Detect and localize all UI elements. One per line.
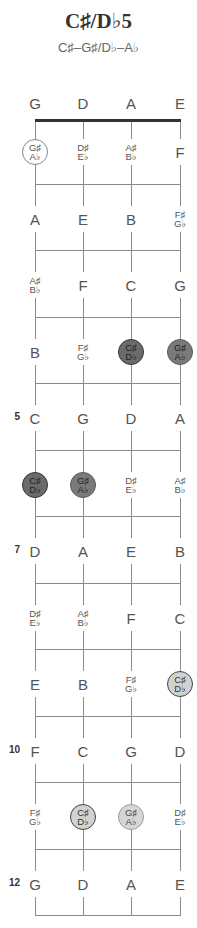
fret-note[interactable]: D [70, 871, 96, 897]
fret-note[interactable]: F♯G♭ [22, 804, 48, 830]
fret-note[interactable]: E [167, 871, 193, 897]
fret-note[interactable]: F [70, 272, 96, 298]
note-name: G♭ [77, 352, 89, 361]
note-name: F [30, 743, 39, 760]
fret-note[interactable]: B [70, 671, 96, 697]
fret-note[interactable]: F [167, 139, 193, 165]
fret-number-marker: 5 [6, 411, 20, 422]
string-line-A [131, 121, 132, 915]
fret-note[interactable]: C♯D♭ [70, 804, 96, 830]
fret-note[interactable]: A♯B♭ [70, 605, 96, 631]
fret-note[interactable]: C [22, 405, 48, 431]
fret-note[interactable]: C [70, 738, 96, 764]
note-name: D [30, 543, 41, 560]
note-name: E♭ [175, 817, 186, 826]
fret-note[interactable]: B [118, 206, 144, 232]
note-name: B [126, 211, 136, 228]
fret-note[interactable]: G♯A♭ [167, 339, 193, 365]
note-name: B [175, 543, 185, 560]
fret-note[interactable]: F♯G♭ [118, 671, 144, 697]
fret-note[interactable]: F♯G♭ [70, 339, 96, 365]
fret-line-5 [35, 450, 181, 451]
note-name: D [126, 410, 137, 427]
fret-note[interactable]: C [118, 272, 144, 298]
fret-note[interactable]: D♯E♭ [70, 139, 96, 165]
note-name: A [126, 876, 136, 893]
fret-note[interactable]: E [70, 206, 96, 232]
note-name: G [174, 277, 186, 294]
note-name: A [175, 410, 185, 427]
fret-line-12 [35, 915, 181, 916]
note-name: D [175, 743, 186, 760]
note-name: F [126, 610, 135, 627]
fret-note[interactable]: G♯A♭ [70, 472, 96, 498]
fret-line-1 [35, 184, 181, 185]
fret-note[interactable]: A♯B♭ [167, 472, 193, 498]
fret-note[interactable]: G♯A♭ [22, 139, 48, 165]
note-name: A♭ [126, 817, 137, 826]
fret-note[interactable]: G [70, 405, 96, 431]
note-name: B♭ [30, 285, 41, 294]
fret-number-marker: 10 [6, 744, 20, 755]
note-name: E♭ [30, 618, 41, 627]
fret-note[interactable]: G [118, 738, 144, 764]
string-line-E [180, 121, 181, 915]
fret-line-4 [35, 383, 181, 384]
open-string-label: G [20, 95, 50, 112]
note-name: C [126, 277, 137, 294]
fret-note[interactable]: D [167, 738, 193, 764]
fret-note[interactable]: A [22, 206, 48, 232]
fret-note[interactable]: D♯E♭ [167, 804, 193, 830]
fret-note[interactable]: A [70, 538, 96, 564]
fret-line-8 [35, 649, 181, 650]
fret-note[interactable]: B [167, 538, 193, 564]
fret-line-2 [35, 250, 181, 251]
note-name: B♭ [126, 152, 137, 161]
open-string-label: E [165, 95, 195, 112]
fret-note[interactable]: C♯D♭ [167, 671, 193, 697]
note-name: F [175, 144, 184, 161]
fret-number-marker: 7 [6, 544, 20, 555]
note-name: A [30, 211, 40, 228]
fret-note[interactable]: D♯E♭ [118, 472, 144, 498]
fret-line-6 [35, 516, 181, 517]
fret-note[interactable]: F [118, 605, 144, 631]
note-name: G [29, 876, 41, 893]
fret-note[interactable]: A [167, 405, 193, 431]
note-name: D♭ [174, 684, 185, 693]
note-name: B♭ [175, 485, 186, 494]
note-name: A♭ [30, 152, 41, 161]
fret-note[interactable]: F♯G♭ [167, 206, 193, 232]
fret-note[interactable]: G [22, 871, 48, 897]
note-name: D♭ [29, 485, 40, 494]
fret-note[interactable]: D [118, 405, 144, 431]
fret-note[interactable]: F [22, 738, 48, 764]
fret-note[interactable]: G [167, 272, 193, 298]
fret-note[interactable]: C♯D♭ [22, 472, 48, 498]
note-name: E [30, 676, 40, 693]
fret-note[interactable]: D♯E♭ [22, 605, 48, 631]
note-name: G♭ [125, 684, 137, 693]
note-name: E♭ [126, 485, 137, 494]
fret-note[interactable]: A♯B♭ [118, 139, 144, 165]
fret-note[interactable]: A♯B♭ [22, 272, 48, 298]
note-name: C [30, 410, 41, 427]
fret-note[interactable]: E [118, 538, 144, 564]
fret-note[interactable]: C♯D♭ [118, 339, 144, 365]
fret-number-marker: 12 [6, 877, 20, 888]
fret-note[interactable]: C [167, 605, 193, 631]
note-name: G♭ [174, 219, 186, 228]
fret-line-11 [35, 849, 181, 850]
fret-note[interactable]: A [118, 871, 144, 897]
fret-note[interactable]: E [22, 671, 48, 697]
fret-note[interactable]: B [22, 339, 48, 365]
note-name: D♭ [77, 817, 88, 826]
fret-note[interactable]: G♯A♭ [118, 804, 144, 830]
note-name: C [78, 743, 89, 760]
fret-note[interactable]: D [22, 538, 48, 564]
note-name: A [78, 543, 88, 560]
open-string-label: D [68, 95, 98, 112]
note-name: F [78, 277, 87, 294]
note-name: G [77, 410, 89, 427]
note-name: B♭ [78, 618, 89, 627]
